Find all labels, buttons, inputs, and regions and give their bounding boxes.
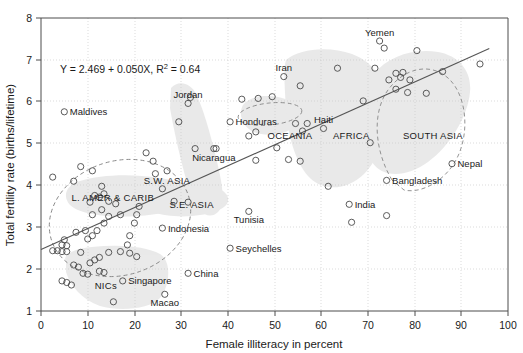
- y-tick-5: 5: [26, 137, 32, 149]
- x-tick-40: 40: [222, 319, 234, 331]
- y-tick-3: 3: [26, 221, 32, 233]
- x-tick-90: 90: [455, 319, 467, 331]
- point-label-tunisia: Tunisia: [234, 214, 265, 225]
- y-tick-1: 1: [26, 305, 32, 317]
- regression-equation-annotation: Y = 2.469 + 0.050X, R2 = 0.64: [60, 62, 200, 75]
- point-label-singapore: Singapore: [128, 275, 171, 286]
- cluster-label-s-w-asia: S.W. ASIA: [144, 175, 191, 186]
- figure-background: [0, 0, 523, 353]
- equation-tail: = 0.64: [168, 63, 201, 75]
- x-tick-10: 10: [82, 319, 94, 331]
- x-tick-70: 70: [362, 319, 374, 331]
- point-label-iran: Iran: [276, 62, 292, 73]
- x-axis-title: Female illiteracy in percent: [206, 338, 344, 350]
- y-tick-6: 6: [26, 95, 32, 107]
- x-tick-20: 20: [129, 319, 141, 331]
- point-label-yemen: Yemen: [365, 27, 394, 38]
- x-tick-100: 100: [499, 319, 517, 331]
- point-label-nicaragua: Nicaragua: [192, 152, 236, 163]
- point-label-macao: Macao: [151, 297, 180, 308]
- point-label-china: China: [194, 268, 220, 279]
- point-label-haiti: Haiti: [314, 114, 333, 125]
- cluster-label-s-e-asia: S.E. ASIA: [169, 199, 214, 210]
- y-tick-4: 4: [26, 179, 32, 191]
- x-tick-50: 50: [269, 319, 281, 331]
- y-tick-7: 7: [26, 54, 32, 66]
- plot-canvas: MaldivesJordanHondurasIranYemenHaitiNepa…: [0, 0, 523, 353]
- point-label-indonesia: Indonesia: [168, 223, 210, 234]
- x-tick-80: 80: [409, 319, 421, 331]
- cluster-label-l-amer-carib: L. AMER & CARIB: [71, 192, 154, 203]
- equation-lead: Y = 2.469 + 0.050X, R: [60, 63, 164, 75]
- point-label-honduras: Honduras: [236, 116, 277, 127]
- point-label-nepal: Nepal: [458, 158, 483, 169]
- point-label-maldives: Maldives: [70, 106, 108, 117]
- cluster-label-africa: AFRICA: [333, 130, 370, 141]
- scatter-plot-figure: MaldivesJordanHondurasIranYemenHaitiNepa…: [0, 0, 523, 353]
- cluster-label-south-asia: SOUTH ASIA: [403, 130, 463, 141]
- y-tick-2: 2: [26, 263, 32, 275]
- cluster-label-nics: NICs: [95, 280, 117, 291]
- y-axis-title: Total fertility rate (births/lifetime): [4, 84, 16, 246]
- x-tick-60: 60: [315, 319, 327, 331]
- y-tick-8: 8: [26, 12, 32, 24]
- point-label-bangladesh: Bangladesh: [392, 175, 442, 186]
- point-label-india: India: [355, 199, 376, 210]
- point-label-jordan: Jordan: [174, 89, 203, 100]
- x-tick-30: 30: [175, 319, 187, 331]
- point-label-seychelles: Seychelles: [236, 243, 282, 254]
- x-tick-0: 0: [38, 319, 44, 331]
- cluster-label-oceania: OCEANIA: [268, 130, 313, 141]
